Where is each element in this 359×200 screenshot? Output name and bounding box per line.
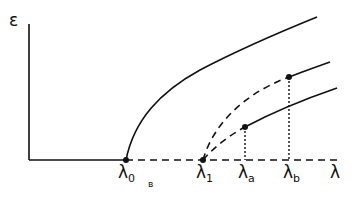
- tick-lambda-b: λb: [283, 164, 300, 184]
- lambda-b-point: [286, 74, 292, 80]
- lower-secondary-solid: [245, 88, 337, 127]
- y-axis-label: ε: [9, 12, 18, 29]
- tick-lambda-a: λa: [238, 164, 255, 184]
- x-axis-label: λ: [330, 164, 340, 181]
- upper-secondary-solid: [289, 62, 330, 77]
- tick-lambda1: λ1: [196, 164, 213, 184]
- bifurcation-diagram: [0, 0, 359, 200]
- lambda-a-point: [242, 124, 248, 130]
- tick-lambda0: λ0: [118, 164, 135, 184]
- panel-label: в: [148, 180, 153, 189]
